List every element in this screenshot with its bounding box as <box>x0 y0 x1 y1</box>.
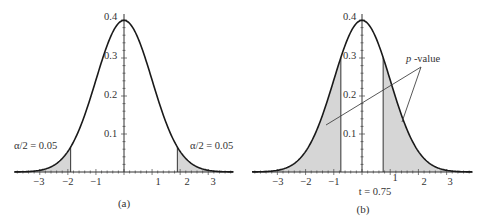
b-ytick-0.4: 0.4 <box>343 11 357 22</box>
a-ytick-0.3: 0.3 <box>104 50 117 61</box>
shaded-tail-region <box>252 58 341 172</box>
shaded-tail-region <box>383 58 472 172</box>
a-ytick-0.4: 0.4 <box>104 11 118 22</box>
a-xtick-2: 2 <box>184 176 189 187</box>
b-xtick-3: 3 <box>447 176 452 187</box>
a-xtick--2: −2 <box>62 176 73 187</box>
pvalue-pointer-line <box>402 67 421 122</box>
a-caption: (a) <box>118 197 131 210</box>
b-pvalue-rest: -value <box>411 53 440 64</box>
a-xtick-3: 3 <box>210 176 215 187</box>
b-ytick-0.2: 0.2 <box>343 89 356 100</box>
chart-canvas: 0.4 0.3 0.2 0.1 −3 −2 −1 1 2 3 α/2 = 0.0… <box>0 0 483 223</box>
b-xtick--2: −2 <box>300 176 311 187</box>
b-caption: (b) <box>357 203 370 216</box>
b-pvalue-label: p -value <box>405 53 440 64</box>
b-tstat-label: t = 0.75 <box>359 186 391 197</box>
a-xtick--1: −1 <box>90 176 101 187</box>
b-ytick-0.3: 0.3 <box>343 50 356 61</box>
a-right-tail-label: α/2 = 0.05 <box>190 140 233 151</box>
a-ytick-0.2: 0.2 <box>104 89 117 100</box>
a-ytick-0.1: 0.1 <box>104 128 117 139</box>
b-xtick-1: 1 <box>392 172 397 183</box>
b-ytick-0.1: 0.1 <box>343 128 356 139</box>
b-xtick--1: −1 <box>328 176 339 187</box>
panel-b <box>252 14 473 175</box>
b-xtick-2: 2 <box>421 176 426 187</box>
a-left-tail-label: α/2 = 0.05 <box>14 140 57 151</box>
b-xtick--3: −3 <box>272 176 283 187</box>
a-xtick--3: −3 <box>33 176 44 187</box>
a-xtick-1: 1 <box>155 176 160 187</box>
